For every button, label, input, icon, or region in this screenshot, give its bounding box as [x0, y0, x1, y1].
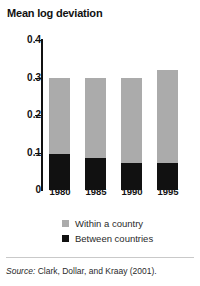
source-citation: Clark, Dollar, and Kraay (2001). — [35, 266, 156, 276]
bar-stack[interactable] — [85, 78, 106, 191]
chart-legend: Within a countryBetween countries — [0, 216, 200, 246]
legend-swatch — [62, 235, 69, 242]
x-axis-label: 1990 — [115, 186, 149, 197]
bar-stack[interactable] — [49, 78, 70, 191]
bar-segment-within-a-country[interactable] — [85, 78, 106, 158]
bar-segment-within-a-country[interactable] — [121, 78, 142, 164]
bar-group[interactable] — [49, 78, 70, 191]
legend-swatch — [62, 220, 69, 227]
source-divider — [6, 257, 194, 258]
x-axis-label: 1985 — [79, 186, 113, 197]
legend-label: Between countries — [75, 233, 153, 244]
bar-group[interactable] — [157, 70, 178, 190]
source-label: Source: — [6, 266, 35, 276]
legend-label: Within a country — [75, 218, 143, 229]
legend-item[interactable]: Between countries — [0, 231, 200, 246]
legend-item[interactable]: Within a country — [0, 216, 200, 231]
bar-group[interactable] — [121, 78, 142, 191]
figure: Mean log deviation 0.40.30.20.10 1980198… — [0, 0, 200, 286]
bar-segment-between-countries[interactable] — [49, 154, 70, 190]
bar-segment-within-a-country[interactable] — [157, 70, 178, 163]
x-axis-label: 1980 — [43, 186, 77, 197]
bar-stack[interactable] — [121, 78, 142, 191]
bar-stack[interactable] — [157, 70, 178, 190]
bar-segment-within-a-country[interactable] — [49, 78, 70, 155]
chart-title: Mean log deviation — [7, 7, 102, 20]
bar-group[interactable] — [85, 78, 106, 191]
source-note: Source: Clark, Dollar, and Kraay (2001). — [6, 266, 157, 276]
plot-area: 0.40.30.20.10 1980198519901995 — [0, 28, 200, 196]
x-axis-label: 1995 — [151, 186, 185, 197]
bar-series: 1980198519901995 — [0, 28, 200, 196]
